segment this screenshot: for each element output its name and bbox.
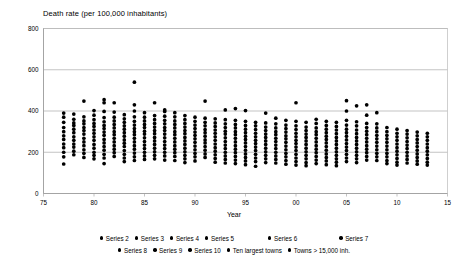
legend-item[interactable]: Series 3 [135, 235, 164, 242]
legend-marker-icon [339, 236, 342, 239]
svg-text:90: 90 [191, 199, 199, 206]
svg-text:80: 80 [90, 199, 98, 206]
legend-item[interactable]: Series 2 [100, 235, 129, 242]
legend-marker-icon [153, 248, 156, 251]
legend-item[interactable]: Series 4 [170, 235, 199, 242]
legend-item[interactable]: Series 6 [268, 235, 297, 242]
legend-marker-icon [188, 248, 191, 251]
y-axis-tick-labels: 0200400600800 [28, 25, 39, 197]
svg-text:800: 800 [28, 25, 39, 32]
chart-legend: Series 2Series 3Series 4Series 5Series 6… [0, 232, 468, 256]
legend-item[interactable]: Series 9 [153, 247, 182, 254]
legend-label: Series 8 [124, 247, 147, 254]
legend-label: Towns > 15,000 inh. [294, 247, 350, 254]
legend-marker-icon [118, 248, 121, 251]
scatter-chart: Death rate (per 100,000 inhabitants) 020… [0, 0, 468, 267]
x-axis-tick-labels: 758085909500051015 [40, 199, 452, 206]
svg-text:75: 75 [40, 199, 48, 206]
legend-item[interactable]: Series 7 [339, 235, 368, 242]
legend-label: Series 5 [211, 235, 234, 242]
svg-text:200: 200 [28, 149, 39, 156]
legend-marker-icon [135, 236, 138, 239]
legend-marker-icon [227, 248, 230, 251]
x-axis-ticks [44, 194, 448, 197]
legend-row: Series 2Series 3Series 4Series 5Series 6… [0, 232, 468, 244]
legend-marker-icon [170, 236, 173, 239]
legend-marker-icon [205, 236, 208, 239]
x-axis-label: Year [0, 211, 468, 218]
legend-marker-icon [100, 236, 103, 239]
legend-item[interactable]: Towns > 15,000 inh. [288, 247, 350, 254]
legend-marker-icon [268, 236, 271, 239]
legend-label: Series 10 [194, 247, 221, 254]
legend-row: Series 8Series 9Series 10Ten largest tow… [0, 244, 468, 256]
svg-text:00: 00 [292, 199, 300, 206]
legend-item[interactable]: Series 8 [118, 247, 147, 254]
svg-text:600: 600 [28, 66, 39, 73]
svg-text:0: 0 [35, 190, 39, 197]
legend-label: Series 4 [176, 235, 199, 242]
legend-item[interactable]: Ten largest towns [227, 247, 282, 254]
plot-area: 0200400600800 758085909500051015 [0, 0, 468, 267]
legend-label: Series 2 [106, 235, 129, 242]
legend-label: Series 7 [345, 235, 368, 242]
legend-label: Series 6 [274, 235, 297, 242]
legend-marker-icon [288, 248, 291, 251]
legend-label: Series 3 [141, 235, 164, 242]
svg-text:10: 10 [393, 199, 401, 206]
svg-text:05: 05 [343, 199, 351, 206]
svg-text:400: 400 [28, 107, 39, 114]
legend-label: Ten largest towns [233, 247, 282, 254]
data-points [62, 80, 429, 168]
svg-text:15: 15 [444, 199, 452, 206]
svg-text:85: 85 [141, 199, 149, 206]
legend-label: Series 9 [159, 247, 182, 254]
legend-item[interactable]: Series 10 [188, 247, 221, 254]
svg-text:95: 95 [242, 199, 250, 206]
legend-item[interactable]: Series 5 [205, 235, 234, 242]
